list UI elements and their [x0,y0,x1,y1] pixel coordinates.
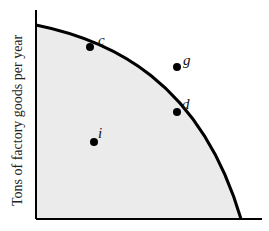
point-c [86,43,94,51]
label-g: g [183,52,191,68]
point-d [173,108,181,116]
label-c: c [98,32,105,48]
label-d: d [182,96,190,112]
label-i: i [98,125,102,141]
ppf-chart: c g d i Tons of factory goods per year [0,0,269,231]
point-i [90,138,98,146]
y-axis-label: Tons of factory goods per year [10,34,25,206]
point-g [173,63,181,71]
feasible-region [36,25,241,219]
